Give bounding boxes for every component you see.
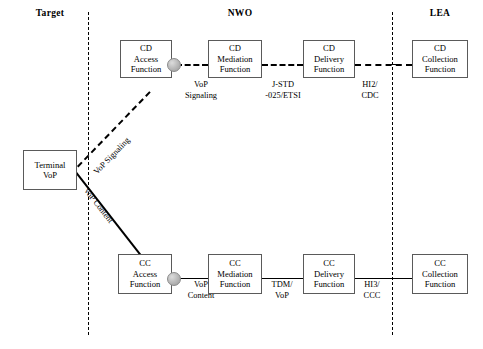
node-terminal-vop[interactable]: Terminal VoP bbox=[23, 150, 77, 190]
link-cd-mediation-to-cd-delivery bbox=[262, 64, 303, 66]
node-cc-collection-function[interactable]: CC Collection Function bbox=[412, 254, 468, 294]
diagram-canvas: Target NWO LEA CD Access Function CD Med… bbox=[0, 0, 483, 349]
node-cd-access-function[interactable]: CD Access Function bbox=[120, 40, 172, 78]
boundary-tick-bottom bbox=[386, 278, 398, 279]
node-label-line1: CC bbox=[434, 258, 445, 268]
node-label-line2: VoP bbox=[43, 170, 57, 180]
edge-label-vop-signaling: VoP Signaling bbox=[172, 80, 230, 101]
edge-label-tdm-vop: TDM/ VoP bbox=[258, 280, 306, 301]
node-label-line3: Function bbox=[220, 64, 251, 74]
edge-label-jstd-etsi: J-STD -025/ETSI bbox=[252, 80, 314, 101]
node-label-line1: CC bbox=[139, 258, 150, 268]
boundary-tick-top bbox=[388, 64, 397, 65]
trunk-label-vop-signaling: VoP Signaling bbox=[92, 136, 132, 177]
node-label-line3: Function bbox=[314, 64, 345, 74]
node-label-line3: Function bbox=[220, 279, 251, 289]
link-cc-mediation-to-cc-delivery bbox=[262, 278, 303, 279]
node-label-line2: Mediation bbox=[217, 54, 252, 64]
column-header-nwo: NWO bbox=[200, 8, 280, 18]
node-cc-delivery-function[interactable]: CC Delivery Function bbox=[303, 254, 355, 294]
node-label-line2: Access bbox=[134, 54, 158, 64]
link-cc-delivery-to-cc-collection bbox=[355, 278, 412, 279]
edge-label-line2: VoP bbox=[258, 291, 306, 302]
edge-label-line1: HI2/ bbox=[349, 80, 391, 91]
node-label-line1: CC bbox=[229, 258, 240, 268]
node-label-line1: CC bbox=[323, 258, 334, 268]
column-header-lea: LEA bbox=[408, 8, 472, 18]
node-label-line1: CD bbox=[434, 43, 446, 53]
node-label-line3: Function bbox=[425, 279, 456, 289]
edge-label-line1: J-STD bbox=[252, 80, 314, 91]
edge-label-line1: HI3/ bbox=[351, 280, 393, 291]
node-cd-mediation-function[interactable]: CD Mediation Function bbox=[208, 40, 262, 78]
edge-label-line2: Signaling bbox=[172, 91, 230, 102]
edge-label-line2: CDC bbox=[349, 91, 391, 102]
node-label-line1: CD bbox=[323, 43, 335, 53]
node-label-line3: Function bbox=[130, 279, 161, 289]
edge-label-line1: TDM/ bbox=[258, 280, 306, 291]
node-label-line3: Function bbox=[131, 64, 162, 74]
node-cc-access-function[interactable]: CC Access Function bbox=[118, 254, 172, 294]
node-label-line2: Delivery bbox=[314, 54, 344, 64]
node-label-line2: Collection bbox=[422, 54, 458, 64]
column-header-target: Target bbox=[20, 8, 80, 18]
node-label-line2: Access bbox=[133, 269, 157, 279]
edge-label-line1: VoP bbox=[172, 80, 230, 91]
link-cd-delivery-to-cd-collection bbox=[355, 64, 412, 66]
node-label-line3: Function bbox=[314, 279, 345, 289]
edge-label-line2: CCC bbox=[351, 291, 393, 302]
edge-label-hi2-cdc: HI2/ CDC bbox=[349, 80, 391, 101]
node-cd-delivery-function[interactable]: CD Delivery Function bbox=[303, 40, 355, 78]
node-label-line3: Function bbox=[425, 64, 456, 74]
divider-target-nwo bbox=[88, 12, 89, 335]
edge-label-line2: -025/ETSI bbox=[252, 91, 314, 102]
node-cd-collection-function[interactable]: CD Collection Function bbox=[412, 40, 468, 78]
node-cc-mediation-function[interactable]: CC Mediation Function bbox=[208, 254, 262, 294]
tap-point-icon-signaling bbox=[167, 58, 181, 72]
node-label-line1: Terminal bbox=[35, 160, 66, 170]
tap-point-icon-content bbox=[167, 272, 181, 286]
node-label-line2: Delivery bbox=[314, 269, 344, 279]
trunk-label-vop-content: VoP Content bbox=[82, 186, 115, 225]
node-label-line2: Collection bbox=[422, 269, 458, 279]
node-label-line1: CD bbox=[140, 43, 152, 53]
edge-label-hi3-ccc: HI3/ CCC bbox=[351, 280, 393, 301]
node-label-line1: CD bbox=[229, 43, 241, 53]
node-label-line2: Mediation bbox=[217, 269, 252, 279]
